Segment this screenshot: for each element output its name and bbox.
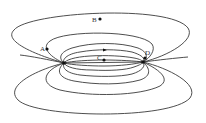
- label-d: D: [145, 49, 150, 57]
- point-b: B: [92, 16, 102, 24]
- field-line-diagram: A B C D: [0, 0, 206, 123]
- field-line-outer-bottom: [15, 62, 192, 114]
- label-a: A: [40, 45, 45, 53]
- arrow-right-icon: [103, 49, 107, 52]
- label-b: B: [92, 16, 97, 24]
- label-c: C: [97, 54, 102, 62]
- pole-fan-right: [143, 57, 188, 62]
- lower-field-lines: [15, 62, 192, 114]
- point-a: A: [40, 45, 49, 53]
- point-d: D: [143, 49, 150, 60]
- right-pole-dot: [141, 60, 145, 64]
- field-line-axis: [64, 62, 143, 63]
- left-pole-dot: [62, 61, 66, 65]
